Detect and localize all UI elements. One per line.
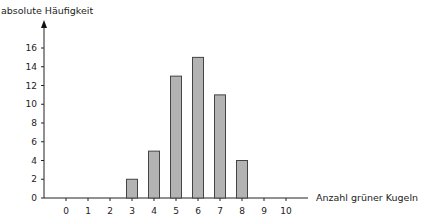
x-tick-label: 1 [85,206,91,216]
y-tick-label: 4 [31,156,37,166]
x-tick-label: 10 [280,206,292,216]
y-tick-label: 12 [26,81,37,91]
y-tick-label: 6 [31,137,37,147]
x-tick-label: 5 [173,206,179,216]
bar-4 [149,151,160,198]
y-tick-label: 2 [31,174,37,184]
bar-5 [171,76,182,198]
x-tick-label: 0 [63,206,69,216]
x-tick-label: 3 [129,206,135,216]
x-tick-label: 8 [239,206,245,216]
bar-7 [215,95,226,198]
y-tick-label: 8 [31,118,37,128]
y-tick-label: 10 [26,99,38,109]
y-tick-label: 0 [31,193,37,203]
bar-6 [193,57,204,198]
bar-chart: absolute Häufigkeit 02468101214160123456… [0,0,427,224]
x-tick-label: 2 [107,206,113,216]
y-tick-label: 16 [26,43,38,53]
x-tick-label: 7 [217,206,223,216]
bar-8 [237,161,248,199]
x-tick-label: 4 [151,206,157,216]
y-axis-label: absolute Häufigkeit [1,5,94,16]
bars [127,57,248,198]
bar-3 [127,179,138,198]
y-axis-arrow-icon [41,20,47,28]
x-tick-label: 6 [195,206,201,216]
y-tick-label: 14 [26,62,38,72]
x-tick-label: 9 [261,206,267,216]
x-axis-label: Anzahl grüner Kugeln [316,192,418,203]
axes: 0246810121416012345678910 [26,20,308,216]
